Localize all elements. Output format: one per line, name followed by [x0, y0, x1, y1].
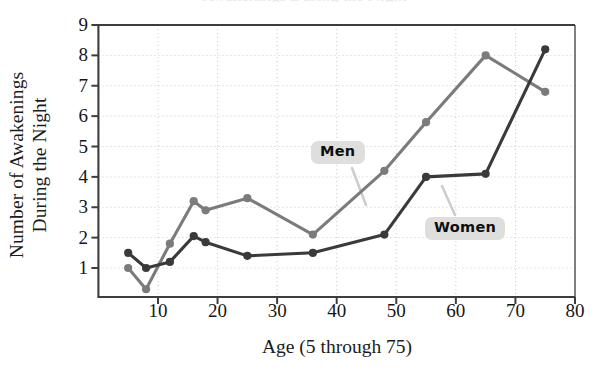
data-point: [482, 170, 490, 178]
data-point: [190, 197, 198, 205]
data-point: [380, 230, 388, 238]
data-point: [541, 88, 549, 96]
data-point: [166, 258, 174, 266]
data-point: [309, 230, 317, 238]
data-point: [124, 249, 132, 257]
data-point: [142, 264, 150, 272]
data-point: [422, 173, 430, 181]
data-point: [309, 249, 317, 257]
data-point: [142, 285, 150, 293]
data-point: [243, 194, 251, 202]
men-callout-label: Men: [311, 141, 365, 164]
data-point: [166, 240, 174, 248]
data-point: [482, 51, 490, 59]
data-point: [202, 238, 210, 246]
data-point: [124, 264, 132, 272]
chart-figure: Awakenings During the Night Number of Aw…: [0, 0, 609, 371]
women-callout-label: Women: [425, 217, 505, 240]
data-point: [422, 118, 430, 126]
data-point: [190, 232, 198, 240]
data-point: [202, 206, 210, 214]
plot-area: [0, 0, 609, 371]
data-point: [541, 45, 549, 53]
data-point: [380, 167, 388, 175]
data-point: [243, 252, 251, 260]
